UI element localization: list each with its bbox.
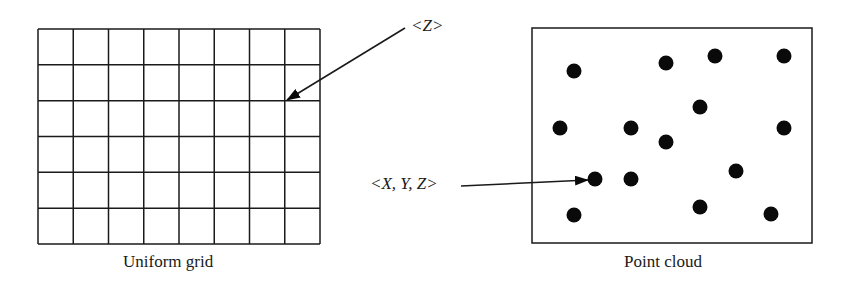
uniform-grid-caption: Uniform grid (123, 252, 213, 272)
cloud-point (553, 121, 568, 136)
z-arrow (287, 28, 405, 100)
cloud-point (708, 49, 723, 64)
uniform-grid (38, 29, 320, 244)
cloud-point (693, 100, 708, 115)
cloud-point (624, 172, 639, 187)
z-label: <Z> (411, 16, 443, 36)
cloud-point (659, 135, 674, 150)
point-cloud (532, 28, 812, 243)
cloud-point (567, 208, 582, 223)
xyz-label: <X, Y, Z> (370, 174, 438, 194)
cloud-point (693, 200, 708, 215)
cloud-point (777, 121, 792, 136)
cloud-point (764, 207, 779, 222)
cloud-point (659, 56, 674, 71)
cloud-point (588, 172, 603, 187)
xyz-arrow (461, 180, 588, 186)
cloud-point (777, 49, 792, 64)
cloud-point (729, 164, 744, 179)
cloud-point (624, 121, 639, 136)
diagram-canvas (0, 0, 845, 287)
cloud-point (567, 64, 582, 79)
point-cloud-caption: Point cloud (624, 252, 702, 272)
